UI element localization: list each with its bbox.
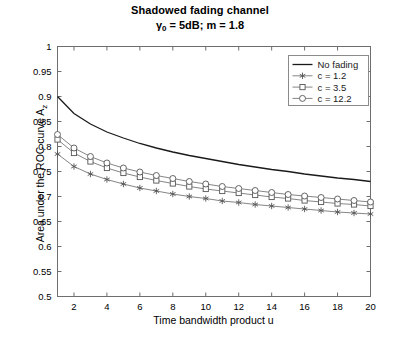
marker-circle xyxy=(236,186,242,192)
x-tick-label: 2 xyxy=(71,301,76,312)
marker-circle xyxy=(186,179,192,185)
marker-circle xyxy=(87,154,93,160)
x-tick-label: 20 xyxy=(365,301,376,312)
x-tick-label: 6 xyxy=(137,301,142,312)
marker-square xyxy=(300,85,305,90)
legend-label-1: c = 1.2 xyxy=(318,70,347,81)
marker-circle xyxy=(300,95,306,101)
y-axis-label-text: Area under the ROC curve A xyxy=(34,109,46,243)
marker-circle xyxy=(368,199,374,205)
marker-circle xyxy=(351,198,357,204)
legend-label-0: No fading xyxy=(318,59,359,70)
marker-circle xyxy=(318,195,324,201)
legend-label-2: c = 3.5 xyxy=(318,82,347,93)
marker-circle xyxy=(203,181,209,187)
marker-circle xyxy=(285,192,291,198)
marker-circle xyxy=(104,160,110,166)
marker-circle xyxy=(153,173,159,179)
legend-label-3: c = 12.2 xyxy=(318,93,352,104)
marker-circle xyxy=(302,193,308,199)
plot-canvas: 24681012141618200.50.550.60.650.70.750.8… xyxy=(0,0,400,337)
x-tick-label: 14 xyxy=(266,301,277,312)
x-tick-label: 4 xyxy=(104,301,109,312)
marker-circle xyxy=(269,190,275,196)
x-axis-label: Time bandwidth product u xyxy=(57,314,370,326)
marker-circle xyxy=(71,145,77,151)
x-tick-label: 18 xyxy=(332,301,343,312)
x-tick-label: 10 xyxy=(200,301,211,312)
marker-circle xyxy=(170,176,176,182)
marker-circle xyxy=(137,169,143,175)
marker-circle xyxy=(219,184,225,190)
x-tick-label: 16 xyxy=(299,301,310,312)
marker-circle xyxy=(55,132,61,138)
x-tick-label: 12 xyxy=(233,301,244,312)
marker-circle xyxy=(335,196,341,202)
y-axis-label: Area under the ROC curve Az xyxy=(34,49,49,299)
marker-circle xyxy=(252,188,258,194)
chart-figure: Shadowed fading channel γ0 = 5dB; m = 1.… xyxy=(0,0,400,337)
marker-circle xyxy=(120,165,126,171)
y-axis-label-subscript: z xyxy=(40,105,49,109)
x-tick-label: 8 xyxy=(170,301,175,312)
